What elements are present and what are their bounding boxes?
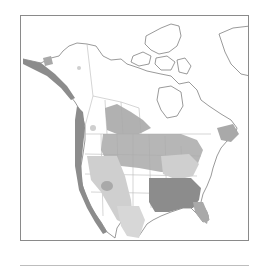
north-america-map [21, 16, 249, 241]
map-frame: North America range map [20, 15, 249, 241]
horizontal-rule [20, 265, 249, 266]
